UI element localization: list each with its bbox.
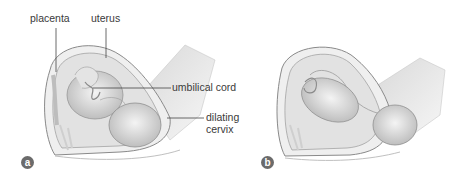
label-umbilical-cord: umbilical cord bbox=[172, 82, 236, 93]
label-cervix: cervix bbox=[206, 124, 233, 135]
panel-badge-a: a bbox=[21, 156, 34, 169]
label-dilating: dilating bbox=[206, 112, 239, 123]
panel-a-artwork bbox=[45, 28, 215, 159]
label-placenta: placenta bbox=[30, 13, 70, 24]
panel-badge-b: b bbox=[261, 156, 274, 169]
childbirth-illustration: placenta uterus umbilical cord dilating … bbox=[0, 0, 453, 181]
label-uterus: uterus bbox=[91, 13, 120, 24]
panel-b-artwork bbox=[277, 47, 445, 160]
